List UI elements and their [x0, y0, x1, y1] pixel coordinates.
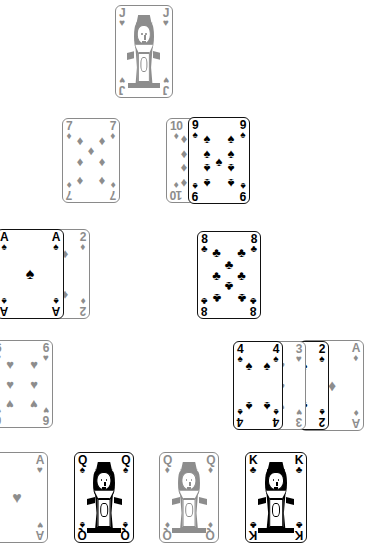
- card-pip-area: ♣♣♣♣♣♣♣♣: [204, 243, 254, 307]
- corner-suit-icon: ♥: [119, 75, 125, 85]
- suit-pip-clubs-icon: ♣: [225, 279, 234, 292]
- suit-pip-hearts-icon: ♥: [30, 398, 38, 411]
- card-pip-area: ♠♠♠♠: [240, 353, 276, 418]
- court-figure-part: [153, 51, 160, 59]
- court-figure-part: [172, 528, 205, 533]
- corner-suit-icon: ♠: [123, 520, 128, 530]
- corner-suit-icon: ♣: [296, 520, 303, 530]
- court-figure-part: [185, 503, 193, 517]
- court-figure-part: [87, 497, 95, 505]
- court-figure-part: [127, 51, 134, 59]
- playing-card-jack-of-hearts[interactable]: J♥J♥J♥J♥: [115, 5, 173, 98]
- suit-pip-spades-icon: ♠: [264, 400, 271, 413]
- suit-pip-diamonds-icon: ♦: [77, 133, 84, 146]
- suit-pip-clubs-icon: ♣: [237, 269, 246, 282]
- playing-card-ace-of-spades[interactable]: A♠A♠A♠A♠♠: [0, 229, 64, 319]
- suit-pip-hearts-icon: ♥: [6, 378, 14, 391]
- suit-pip-hearts-icon: ♥: [30, 357, 38, 370]
- suit-pip-diamonds-icon: ♦: [99, 175, 106, 188]
- court-figure-part: [102, 487, 106, 489]
- suit-pip-diamonds-icon: ♦: [181, 161, 188, 174]
- playing-card-six-of-hearts[interactable]: 6♥6♥6♥6♥♥♥♥♥♥♥: [0, 340, 53, 428]
- court-figure-part: [141, 33, 142, 35]
- card-pip-area: ♠: [3, 241, 57, 307]
- corner-suit-icon: ♥: [163, 18, 169, 28]
- suit-pip-clubs-icon: ♣: [237, 292, 246, 305]
- suit-pip-diamonds-icon: ♦: [99, 154, 106, 167]
- card-corner-index: J♥: [163, 75, 169, 95]
- suit-pip-spades-icon: ♠: [228, 131, 235, 144]
- card-corner-index: J♥: [119, 75, 125, 95]
- card-pip-area: ♠♠♠♠♠♠♠♠♠: [195, 129, 243, 192]
- court-figure-part: [172, 497, 180, 505]
- card-pip-area: ♥: [0, 464, 41, 531]
- suit-pip-spades-icon: ♠: [228, 177, 235, 190]
- court-figure-part: [276, 482, 278, 486]
- court-figure-part: [274, 487, 278, 489]
- suit-pip-spades-icon: ♠: [26, 266, 35, 282]
- card-pip-area: ♥♥♥♥♥♥: [0, 352, 46, 416]
- corner-suit-icon: ♥: [163, 75, 169, 85]
- suit-pip-diamonds-icon: ♦: [181, 147, 188, 160]
- playing-card-nine-of-spades[interactable]: 9♠9♠9♠9♠♠♠♠♠♠♠♠♠♠: [188, 117, 250, 204]
- court-figure-part: [145, 33, 146, 35]
- corner-suit-icon: ♦: [208, 465, 213, 475]
- playing-card-eight-of-clubs[interactable]: 8♣8♣8♣8♣♣♣♣♣♣♣♣♣: [197, 231, 261, 319]
- card-corner-index: J♥: [163, 8, 169, 28]
- suit-pip-clubs-icon: ♣: [212, 292, 221, 305]
- court-figure-part: [128, 83, 160, 88]
- suit-pip-spades-icon: ♠: [264, 358, 271, 371]
- suit-pip-spades-icon: ♠: [228, 146, 235, 159]
- corner-suit-icon: ♣: [296, 465, 303, 475]
- court-figure-part: [114, 497, 122, 505]
- suit-pip-hearts-icon: ♥: [12, 490, 22, 506]
- court-figure-part: [199, 497, 207, 505]
- suit-pip-clubs-icon: ♣: [237, 245, 246, 258]
- playing-card-king-of-clubs[interactable]: K♣K♣K♣K♣: [245, 452, 307, 543]
- court-figure: [256, 462, 296, 533]
- suit-pip-spades-icon: ♠: [246, 358, 253, 371]
- playing-card-seven-of-diamonds[interactable]: 7♦7♦7♦7♦♦♦♦♦♦♦♦: [62, 118, 120, 203]
- court-figure-part: [100, 503, 108, 517]
- suit-pip-spades-icon: ♠: [204, 131, 211, 144]
- court-figure-part: [142, 41, 146, 43]
- court-figure-part: [87, 528, 120, 533]
- suit-pip-spades-icon: ♠: [228, 162, 235, 175]
- suit-pip-spades-icon: ♠: [216, 154, 223, 167]
- corner-suit-icon: ♦: [208, 520, 213, 530]
- court-figure-part: [187, 487, 191, 489]
- suit-pip-diamonds-icon: ♦: [88, 144, 95, 157]
- court-figure-part: [191, 479, 193, 481]
- suit-pip-hearts-icon: ♥: [30, 378, 38, 391]
- playing-card-queen-of-spades[interactable]: Q♠Q♠Q♠Q♠: [74, 452, 134, 543]
- suit-pip-diamonds-icon: ♦: [77, 175, 84, 188]
- card-table: J♥J♥J♥J♥7♦7♦7♦7♦♦♦♦♦♦♦♦10♦10♦10♦10♦♦♦♦♦♦…: [0, 0, 368, 543]
- corner-suit-icon: ♠: [123, 465, 128, 475]
- court-figure-part: [286, 497, 294, 505]
- suit-pip-hearts-icon: ♥: [6, 357, 14, 370]
- card-corner-index: J♥: [119, 8, 125, 28]
- suit-pip-clubs-icon: ♣: [212, 269, 221, 282]
- card-corner-index: K♣: [295, 455, 303, 475]
- suit-pip-spades-icon: ♠: [246, 400, 253, 413]
- court-figure-part: [140, 57, 147, 72]
- court-figure: [126, 15, 162, 88]
- suit-pip-clubs-icon: ♣: [225, 258, 234, 271]
- card-corner-index: K♣: [295, 520, 303, 540]
- suit-pip-diamonds-icon: ♦: [99, 133, 106, 146]
- court-figure-part: [144, 35, 146, 39]
- playing-card-ace-of-hearts[interactable]: A♥A♥A♥A♥♥: [0, 452, 48, 543]
- corner-suit-icon: ♥: [119, 18, 125, 28]
- court-figure-part: [258, 497, 266, 505]
- court-figure: [170, 462, 208, 533]
- suit-pip-clubs-icon: ♣: [212, 245, 221, 258]
- suit-pip-hearts-icon: ♥: [6, 398, 14, 411]
- court-figure-part: [258, 528, 293, 533]
- court-figure-part: [272, 503, 280, 517]
- suit-pip-diamonds-icon: ♦: [181, 131, 188, 144]
- card-pip-area: ♦♦♦♦♦♦♦: [69, 130, 113, 191]
- playing-card-queen-of-diamonds[interactable]: Q♦Q♦Q♦Q♦: [159, 452, 219, 543]
- playing-card-four-of-spades[interactable]: 4♠4♠4♠4♠♠♠♠♠: [233, 341, 283, 430]
- court-figure: [85, 462, 123, 533]
- suit-pip-spades-icon: ♠: [204, 162, 211, 175]
